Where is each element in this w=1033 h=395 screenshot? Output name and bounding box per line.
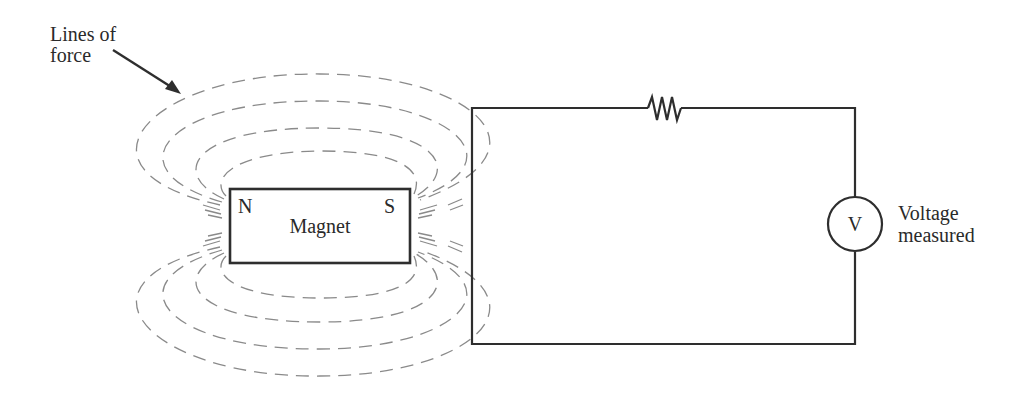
voltmeter: V — [828, 197, 882, 251]
field-lines-upper — [136, 74, 489, 205]
circuit: V Voltage measured — [472, 97, 975, 344]
north-pole-label: N — [238, 195, 252, 217]
circuit-wire — [472, 108, 855, 344]
field-lines-lower — [136, 247, 489, 376]
voltage-label-line1: Voltage — [898, 202, 959, 225]
circuit-wire-top-right — [681, 108, 855, 197]
lines-of-force-label-line2: force — [50, 44, 91, 66]
voltmeter-symbol: V — [848, 213, 863, 235]
resistor-icon — [648, 97, 681, 120]
magnet-label: Magnet — [289, 215, 351, 238]
magnet: N S Magnet — [230, 189, 410, 263]
lines-of-force-label-line1: Lines of — [50, 23, 116, 45]
diagram-canvas: Lines of force — [0, 0, 1033, 395]
voltage-label-line2: measured — [898, 224, 975, 246]
lines-of-force-callout: Lines of force — [50, 23, 181, 94]
arrow-icon — [113, 50, 181, 94]
south-pole-label: S — [384, 195, 395, 217]
